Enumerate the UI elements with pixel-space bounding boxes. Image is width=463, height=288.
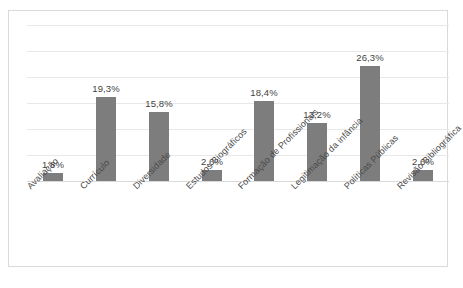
bar-series: 1,8%19,3%15,8%2,6%18,4%13,2%26,3%2,6%: [27, 25, 449, 182]
category-axis-labels: AvaliaçãoCurrículoDiversidadeEstudos Bio…: [27, 184, 449, 276]
bar-value-label: 15,8%: [143, 98, 175, 109]
bar-value-label: 18,4%: [248, 87, 280, 98]
plot-area: 1,8%19,3%15,8%2,6%18,4%13,2%26,3%2,6%: [27, 25, 449, 182]
bar-value-label: 19,3%: [90, 83, 122, 94]
chart-frame: 1,8%19,3%15,8%2,6%18,4%13,2%26,3%2,6% Av…: [8, 10, 448, 267]
bar-value-label: 26,3%: [354, 52, 386, 63]
